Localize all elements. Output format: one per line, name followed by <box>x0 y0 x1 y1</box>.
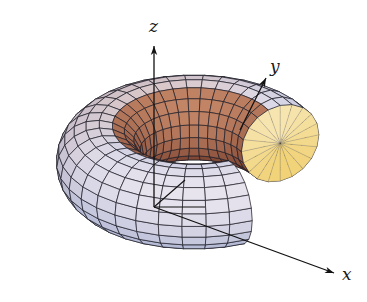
torus-surface-facet <box>206 212 230 227</box>
x-axis-label: x <box>342 264 352 284</box>
torus-surface-facet <box>178 112 189 126</box>
torus-surface-facet <box>183 188 206 201</box>
torus-surface-facet <box>182 237 206 245</box>
torus-surface-facet <box>180 125 190 138</box>
torus-surface-facet <box>163 127 172 142</box>
torus-surface-facet <box>189 138 198 149</box>
torus-surface-facet <box>208 138 218 150</box>
torus-surface-facet <box>186 80 203 88</box>
torus-surface-facet <box>158 212 182 227</box>
z-axis-label: z <box>148 16 159 36</box>
torus-surface-facet <box>188 156 200 160</box>
torus-surface-facet <box>186 164 203 168</box>
torus-surface-facet <box>188 99 200 112</box>
torus-surface-facet <box>187 88 201 99</box>
torus-surface <box>57 75 319 248</box>
torus-surface-facet <box>171 126 181 140</box>
torus-surface-facet <box>205 186 228 201</box>
torus-surface-facet <box>180 138 190 149</box>
torus-surface-facet <box>216 127 225 142</box>
torus-surface-facet <box>208 126 218 140</box>
torus-surface-facet <box>199 112 210 126</box>
torus-surface-facet <box>189 148 200 156</box>
torus-surface-facet <box>199 138 209 149</box>
torus-surface-facet <box>189 125 198 138</box>
torus-surface-facet <box>205 199 229 214</box>
torus-surface-facet <box>171 138 181 150</box>
torus-surface-facet <box>189 112 200 125</box>
torus-surface-facet <box>182 226 206 237</box>
torus-surface-facet <box>159 199 183 214</box>
torus-surface-facet <box>183 245 206 249</box>
torus-surface-facet <box>203 175 225 187</box>
torus-surface-facet <box>185 76 204 80</box>
torus-surface-facet <box>185 169 204 177</box>
torus-surface-facet <box>199 125 209 138</box>
torus-surface-facet <box>163 175 185 187</box>
torus-surface-facet <box>184 177 205 188</box>
torus-figure: z y x <box>0 0 367 302</box>
y-axis-label: y <box>269 56 280 76</box>
